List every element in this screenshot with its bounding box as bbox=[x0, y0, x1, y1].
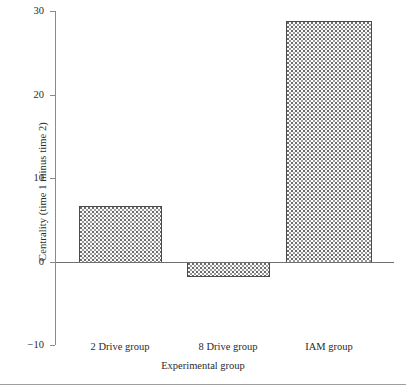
x-axis-title: Experimental group bbox=[0, 360, 406, 371]
y-tick-label-30: 30 bbox=[34, 6, 45, 17]
y-tick-mark-neg10 bbox=[50, 345, 55, 346]
y-tick-mark-10 bbox=[50, 178, 55, 179]
y-tick-mark-0 bbox=[50, 262, 55, 263]
bar-iam-group bbox=[286, 21, 372, 263]
bar-chart-figure: Centrality (time 1 minus time 2) 30 20 1… bbox=[0, 0, 406, 390]
y-tick-label-10: 10 bbox=[34, 173, 45, 184]
y-tick-label-neg10: −10 bbox=[28, 340, 44, 351]
zero-baseline bbox=[56, 262, 394, 263]
bottom-rule bbox=[0, 384, 406, 385]
x-tick-label-2-drive-group: 2 Drive group bbox=[70, 341, 170, 352]
y-tick-mark-30 bbox=[50, 11, 55, 12]
y-tick-label-20: 20 bbox=[34, 90, 45, 101]
y-tick-mark-20 bbox=[50, 95, 55, 96]
y-axis-title: Centrality (time 1 minus time 2) bbox=[37, 72, 48, 312]
y-tick-label-0: 0 bbox=[39, 257, 44, 268]
x-tick-label-8-drive-group: 8 Drive group bbox=[178, 341, 278, 352]
bar-8-drive-group bbox=[187, 262, 270, 277]
bar-2-drive-group bbox=[79, 206, 162, 263]
y-axis-spine bbox=[55, 11, 56, 345]
x-tick-label-iam-group: IAM group bbox=[286, 341, 372, 352]
